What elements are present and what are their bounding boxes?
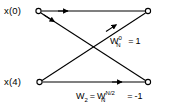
arrowhead-ascending-diagonal xyxy=(106,25,117,32)
twiddle-upper-subscript: N xyxy=(116,42,120,48)
butterfly-diagram-figure: x(0) x(4) W0N=1 W2=WN/2N=-1 xyxy=(0,0,171,112)
output-node-bottom xyxy=(145,79,150,84)
twiddle-lower-equals-first: = xyxy=(88,91,97,101)
input-label-x0: x(0) xyxy=(4,6,21,16)
twiddle-lower-lhs-subscript: 2 xyxy=(85,97,88,103)
arrowhead-descending-diagonal xyxy=(44,15,55,22)
twiddle-lower-lhs-base: W xyxy=(76,92,85,101)
twiddle-lower-equals-second: = xyxy=(119,91,134,101)
twiddle-upper-value: 1 xyxy=(135,36,140,46)
twiddle-factor-label-upper: W0N=1 xyxy=(110,37,140,46)
output-node-top xyxy=(145,8,150,13)
twiddle-upper-superscript: 0 xyxy=(119,35,122,41)
twiddle-lower-value: -1 xyxy=(135,91,143,101)
twiddle-lower-rhs-subscript: N xyxy=(101,97,105,103)
input-node-x4 xyxy=(37,79,42,84)
input-label-x4: x(4) xyxy=(4,77,21,87)
twiddle-factor-label-lower: W2=WN/2N=-1 xyxy=(76,92,143,101)
input-node-x0 xyxy=(36,8,41,13)
twiddle-lower-rhs-superscript: N/2 xyxy=(106,90,115,96)
